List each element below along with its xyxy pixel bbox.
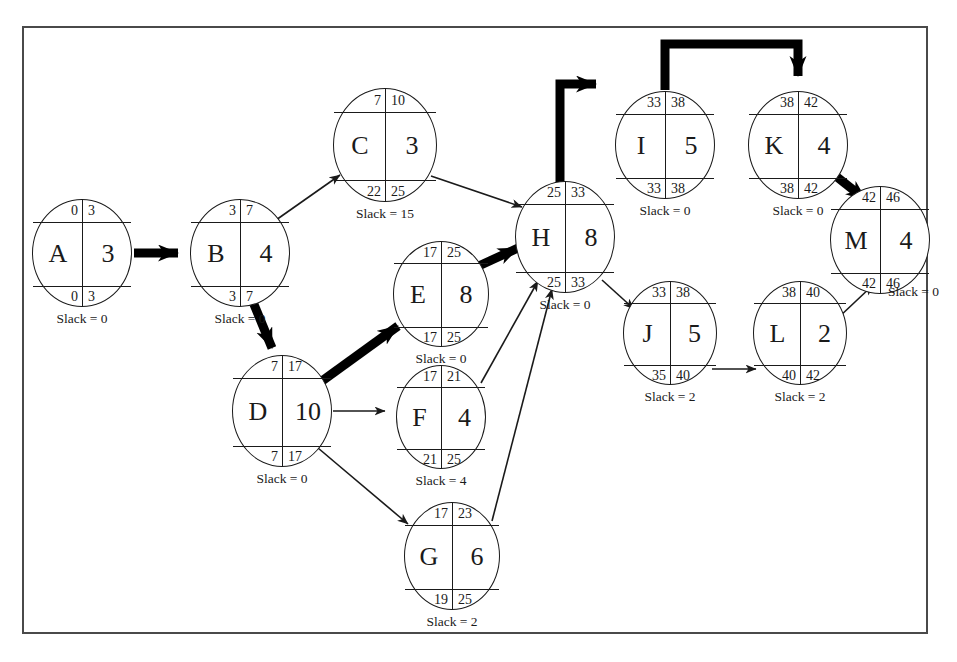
node-b-early-start: 3 bbox=[191, 200, 241, 222]
activity-node-j[interactable]: 3338J53540 bbox=[623, 281, 717, 385]
node-c-early-finish: 10 bbox=[386, 89, 438, 112]
slack-label-g: Slack = 2 bbox=[412, 614, 492, 630]
node-d-early-start: 7 bbox=[233, 356, 283, 378]
node-i-activity: I bbox=[616, 114, 666, 178]
activity-node-k[interactable]: 3842K43842 bbox=[748, 91, 848, 199]
node-c-early-start: 7 bbox=[334, 89, 386, 112]
node-h-late-start: 25 bbox=[516, 272, 566, 294]
slack-label-j: Slack = 2 bbox=[630, 389, 710, 405]
node-g-duration: 6 bbox=[453, 525, 501, 589]
node-g-early-start: 17 bbox=[405, 503, 453, 525]
node-c-duration: 3 bbox=[386, 112, 438, 180]
node-a-early-finish: 3 bbox=[83, 200, 133, 222]
activity-node-m[interactable]: 4246M44246 bbox=[830, 186, 930, 294]
node-b-duration: 4 bbox=[241, 222, 291, 286]
activity-node-g[interactable]: 1723G61925 bbox=[404, 502, 500, 610]
activity-node-d[interactable]: 717D10717 bbox=[232, 355, 332, 467]
node-e-early-start: 17 bbox=[394, 242, 442, 263]
slack-label-b: Slack = 0 bbox=[200, 311, 280, 327]
slack-label-f: Slack = 4 bbox=[401, 473, 481, 489]
node-e-duration: 8 bbox=[442, 263, 490, 327]
node-b-late-finish: 7 bbox=[241, 286, 291, 308]
slack-label-e: Slack = 0 bbox=[401, 351, 481, 367]
node-b-early-finish: 7 bbox=[241, 200, 291, 222]
slack-label-i: Slack = 0 bbox=[625, 203, 705, 219]
node-l-duration: 2 bbox=[801, 303, 848, 365]
node-c-late-start: 22 bbox=[334, 180, 386, 203]
node-a-early-start: 0 bbox=[33, 200, 83, 222]
activity-node-e[interactable]: 1725E81725 bbox=[393, 241, 489, 347]
slack-label-l: Slack = 2 bbox=[760, 389, 840, 405]
node-h-late-finish: 33 bbox=[566, 272, 616, 294]
node-i-duration: 5 bbox=[666, 114, 716, 178]
node-g-activity: G bbox=[405, 525, 453, 589]
node-a-late-finish: 3 bbox=[83, 286, 133, 308]
node-g-late-start: 19 bbox=[405, 589, 453, 611]
node-g-early-finish: 23 bbox=[453, 503, 501, 525]
slack-label-a: Slack = 0 bbox=[42, 311, 122, 327]
node-f-late-finish: 25 bbox=[442, 449, 487, 470]
node-a-late-start: 0 bbox=[33, 286, 83, 308]
node-m-early-finish: 46 bbox=[881, 187, 931, 209]
activity-node-i[interactable]: 3338I53338 bbox=[615, 91, 715, 199]
node-k-early-finish: 42 bbox=[799, 92, 849, 114]
node-j-early-start: 33 bbox=[624, 282, 671, 303]
node-f-duration: 4 bbox=[442, 387, 487, 449]
node-c-activity: C bbox=[334, 112, 386, 180]
node-l-activity: L bbox=[754, 303, 801, 365]
activity-node-c[interactable]: 710C32225 bbox=[333, 88, 437, 202]
node-m-early-start: 42 bbox=[831, 187, 881, 209]
activity-node-f[interactable]: 1721F42125 bbox=[396, 365, 486, 469]
node-f-activity: F bbox=[397, 387, 442, 449]
node-j-activity: J bbox=[624, 303, 671, 365]
node-b-activity: B bbox=[191, 222, 241, 286]
node-f-early-start: 17 bbox=[397, 366, 442, 387]
node-d-late-start: 7 bbox=[233, 446, 283, 468]
node-i-late-start: 33 bbox=[616, 178, 666, 200]
node-e-activity: E bbox=[394, 263, 442, 327]
node-k-duration: 4 bbox=[799, 114, 849, 178]
activity-node-l[interactable]: 3840L24042 bbox=[753, 281, 847, 385]
node-m-activity: M bbox=[831, 209, 881, 273]
activity-node-b[interactable]: 37B437 bbox=[190, 199, 290, 307]
node-e-late-start: 17 bbox=[394, 327, 442, 348]
node-l-late-start: 40 bbox=[754, 365, 801, 386]
slack-label-h: Slack = 0 bbox=[525, 297, 605, 313]
node-d-late-finish: 17 bbox=[283, 446, 333, 468]
node-k-activity: K bbox=[749, 114, 799, 178]
node-h-activity: H bbox=[516, 204, 566, 272]
node-c-late-finish: 25 bbox=[386, 180, 438, 203]
node-j-late-finish: 40 bbox=[671, 365, 718, 386]
node-e-early-finish: 25 bbox=[442, 242, 490, 263]
node-d-activity: D bbox=[233, 378, 283, 446]
node-k-late-start: 38 bbox=[749, 178, 799, 200]
node-j-late-start: 35 bbox=[624, 365, 671, 386]
node-h-early-finish: 33 bbox=[566, 182, 616, 204]
node-b-late-start: 3 bbox=[191, 286, 241, 308]
node-l-early-start: 38 bbox=[754, 282, 801, 303]
slack-label-k: Slack = 0 bbox=[758, 203, 838, 219]
slack-label-m: Slack = 0 bbox=[888, 284, 939, 300]
slack-label-d: Slack = 0 bbox=[242, 471, 322, 487]
node-d-early-finish: 17 bbox=[283, 356, 333, 378]
node-i-late-finish: 38 bbox=[666, 178, 716, 200]
node-i-early-finish: 38 bbox=[666, 92, 716, 114]
slack-label-c: Slack = 15 bbox=[345, 206, 425, 222]
node-f-early-finish: 21 bbox=[442, 366, 487, 387]
activity-node-h[interactable]: 2533H82533 bbox=[515, 181, 615, 293]
node-j-early-finish: 38 bbox=[671, 282, 718, 303]
activity-node-a[interactable]: 03A303 bbox=[32, 199, 132, 307]
node-i-early-start: 33 bbox=[616, 92, 666, 114]
node-a-activity: A bbox=[33, 222, 83, 286]
node-m-late-start: 42 bbox=[831, 273, 881, 295]
node-e-late-finish: 25 bbox=[442, 327, 490, 348]
node-a-duration: 3 bbox=[83, 222, 133, 286]
node-m-duration: 4 bbox=[881, 209, 931, 273]
node-h-duration: 8 bbox=[566, 204, 616, 272]
node-g-late-finish: 25 bbox=[453, 589, 501, 611]
node-h-early-start: 25 bbox=[516, 182, 566, 204]
node-j-duration: 5 bbox=[671, 303, 718, 365]
network-diagram-canvas: 03A30337B437710C32225717D107171725E81725… bbox=[0, 0, 957, 662]
node-f-late-start: 21 bbox=[397, 449, 442, 470]
node-k-early-start: 38 bbox=[749, 92, 799, 114]
